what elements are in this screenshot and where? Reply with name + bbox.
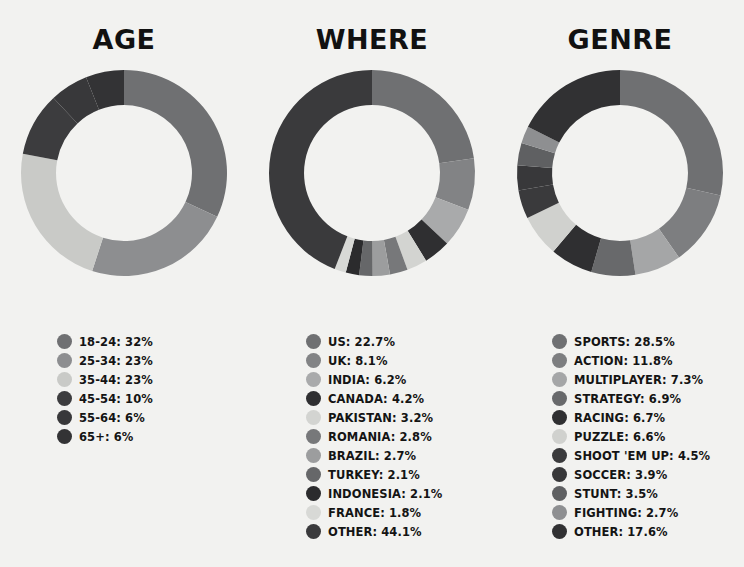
legend-item-label: 45-54: 10% <box>79 392 153 406</box>
legend-swatch-icon <box>552 486 567 501</box>
legend-swatch-icon <box>306 505 321 520</box>
page-title-genre: GENRE <box>568 26 673 53</box>
legends-row: 18-24: 32%25-34: 23%35-44: 23%45-54: 10%… <box>0 332 744 541</box>
legend-item[interactable]: OTHER: 44.1% <box>306 522 422 541</box>
donut-segment <box>124 70 227 217</box>
panel-genre: GENRE <box>496 26 744 279</box>
legend-item[interactable]: RACING: 6.7% <box>552 408 665 427</box>
legend-item[interactable]: PUZZLE: 6.6% <box>552 427 665 446</box>
legend-item-label: STRATEGY: 6.9% <box>574 392 681 406</box>
legend-item-label: INDONESIA: 2.1% <box>328 487 442 501</box>
legend-item[interactable]: PAKISTAN: 3.2% <box>306 408 433 427</box>
page-title-where: WHERE <box>316 26 429 53</box>
legend-swatch-icon <box>57 391 72 406</box>
legend-item[interactable]: MULTIPLAYER: 7.3% <box>552 370 703 389</box>
legend-item-label: ROMANIA: 2.8% <box>328 430 432 444</box>
donut-segment <box>92 202 217 276</box>
legend-item-label: US: 22.7% <box>328 335 395 349</box>
legend-item-label: PUZZLE: 6.6% <box>574 430 665 444</box>
legend-item[interactable]: 35-44: 23% <box>57 370 153 389</box>
legend-swatch-icon <box>306 391 321 406</box>
legend-swatch-icon <box>306 429 321 444</box>
legend-swatch-icon <box>552 467 567 482</box>
legend-item[interactable]: 25-34: 23% <box>57 351 153 370</box>
legend-item[interactable]: STRATEGY: 6.9% <box>552 389 681 408</box>
legend-item[interactable]: SOCCER: 3.9% <box>552 465 667 484</box>
legend-swatch-icon <box>57 410 72 425</box>
age-legend: 18-24: 32%25-34: 23%35-44: 23%45-54: 10%… <box>0 332 249 541</box>
legend-swatch-icon <box>306 524 321 539</box>
legend-item[interactable]: 65+: 6% <box>57 427 133 446</box>
donut-segment <box>372 70 474 163</box>
legend-item-label: 65+: 6% <box>79 430 133 444</box>
legend-swatch-icon <box>552 429 567 444</box>
legend-swatch-icon <box>306 353 321 368</box>
legend-swatch-icon <box>552 391 567 406</box>
donut-segment <box>21 154 103 271</box>
where-legend: US: 22.7%UK: 8.1%INDIA: 6.2%CANADA: 4.2%… <box>249 332 498 541</box>
legend-swatch-icon <box>552 505 567 520</box>
legend-item[interactable]: FIGHTING: 2.7% <box>552 503 678 522</box>
legend-swatch-icon <box>552 372 567 387</box>
page-title-age: AGE <box>92 26 155 53</box>
legend-item-label: FRANCE: 1.8% <box>328 506 421 520</box>
legend-item-label: OTHER: 17.6% <box>574 525 668 539</box>
legend-item-label: SOCCER: 3.9% <box>574 468 667 482</box>
legend-item[interactable]: 18-24: 32% <box>57 332 153 351</box>
legend-swatch-icon <box>57 353 72 368</box>
legend-swatch-icon <box>57 334 72 349</box>
legend-item-label: UK: 8.1% <box>328 354 388 368</box>
legend-item-label: PAKISTAN: 3.2% <box>328 411 433 425</box>
legend-item[interactable]: BRAZIL: 2.7% <box>306 446 416 465</box>
legend-item[interactable]: UK: 8.1% <box>306 351 388 370</box>
genre-legend: SPORTS: 28.5%ACTION: 11.8%MULTIPLAYER: 7… <box>498 332 744 541</box>
legend-item-label: STUNT: 3.5% <box>574 487 658 501</box>
legend-item-label: MULTIPLAYER: 7.3% <box>574 373 703 387</box>
legend-swatch-icon <box>306 334 321 349</box>
legend-item[interactable]: SHOOT 'EM UP: 4.5% <box>552 446 710 465</box>
legend-item[interactable]: STUNT: 3.5% <box>552 484 658 503</box>
legend-item[interactable]: ROMANIA: 2.8% <box>306 427 432 446</box>
age-donut-svg <box>18 67 230 279</box>
panel-where: WHERE <box>248 26 496 279</box>
legend-swatch-icon <box>552 353 567 368</box>
legend-item-label: OTHER: 44.1% <box>328 525 422 539</box>
legend-item[interactable]: SPORTS: 28.5% <box>552 332 675 351</box>
infographic-page: AGE WHERE GENRE 18-24: 32%25-34: 23%35-4… <box>0 0 744 567</box>
legend-item[interactable]: US: 22.7% <box>306 332 395 351</box>
legend-item-label: ACTION: 11.8% <box>574 354 673 368</box>
legend-item-label: 18-24: 32% <box>79 335 153 349</box>
legend-item[interactable]: TURKEY: 2.1% <box>306 465 420 484</box>
legend-item[interactable]: OTHER: 17.6% <box>552 522 668 541</box>
legend-item[interactable]: 55-64: 6% <box>57 408 145 427</box>
where-donut-chart <box>266 67 478 279</box>
legend-item[interactable]: INDIA: 6.2% <box>306 370 406 389</box>
legend-item-label: CANADA: 4.2% <box>328 392 424 406</box>
legend-swatch-icon <box>552 524 567 539</box>
legend-item[interactable]: CANADA: 4.2% <box>306 389 424 408</box>
legend-item[interactable]: ACTION: 11.8% <box>552 351 673 370</box>
legend-item-label: SHOOT 'EM UP: 4.5% <box>574 449 710 463</box>
legend-item-label: FIGHTING: 2.7% <box>574 506 678 520</box>
donut-segment <box>528 70 620 143</box>
age-donut-chart <box>18 67 230 279</box>
panel-age: AGE <box>0 26 248 279</box>
genre-donut-svg <box>514 67 726 279</box>
legend-item-label: BRAZIL: 2.7% <box>328 449 416 463</box>
legend-swatch-icon <box>306 410 321 425</box>
legend-item[interactable]: 45-54: 10% <box>57 389 153 408</box>
legend-swatch-icon <box>552 448 567 463</box>
legend-item-label: RACING: 6.7% <box>574 411 665 425</box>
legend-item[interactable]: FRANCE: 1.8% <box>306 503 421 522</box>
legend-swatch-icon <box>306 372 321 387</box>
legend-item-label: SPORTS: 28.5% <box>574 335 675 349</box>
charts-row: AGE WHERE GENRE <box>0 0 744 279</box>
legend-swatch-icon <box>552 410 567 425</box>
legend-item-label: 25-34: 23% <box>79 354 153 368</box>
genre-donut-chart <box>514 67 726 279</box>
legend-swatch-icon <box>57 429 72 444</box>
legend-swatch-icon <box>306 448 321 463</box>
donut-segment <box>269 70 372 269</box>
legend-item[interactable]: INDONESIA: 2.1% <box>306 484 442 503</box>
donut-segment <box>620 70 723 195</box>
